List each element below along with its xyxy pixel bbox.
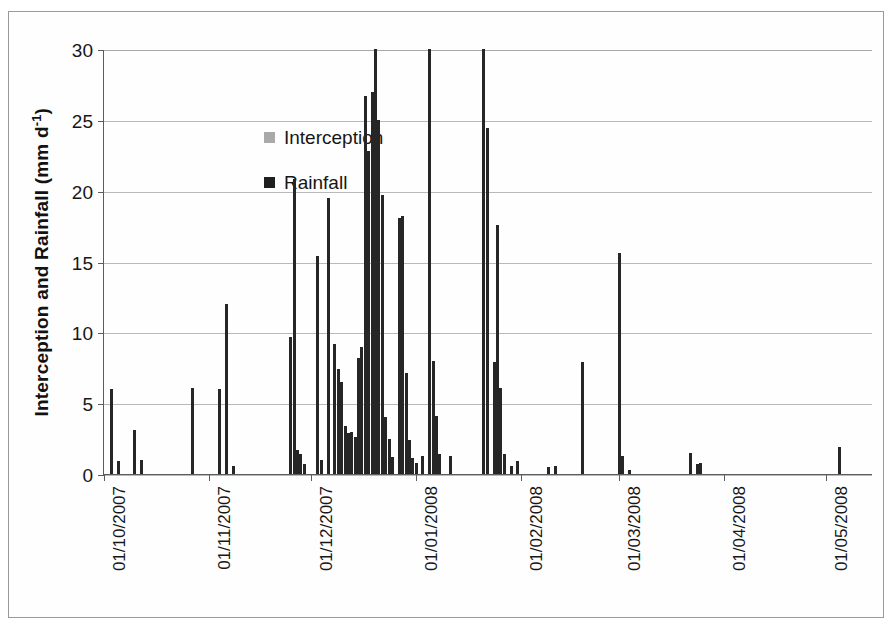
bar-rainfall [133,430,136,474]
x-axis-tick-label: 01/10/2007 [111,486,128,571]
x-axis-tick-label: 01/05/2008 [833,486,850,571]
y-axis-tick-label: 30 [72,41,93,60]
bar-rainfall [117,461,120,474]
x-axis-tick-mark [724,474,725,481]
bar-rainfall [628,470,631,474]
y-axis-tick-label: 10 [72,324,93,343]
bar-rainfall [320,460,323,474]
square-swatch-icon [264,177,275,188]
x-axis-tick-mark [311,474,312,481]
bar-rainfall [516,461,519,474]
bar-rainfall [391,457,394,474]
bar-rainfall [110,389,113,474]
y-axis-tick-label: 25 [72,111,93,130]
bar-rainfall [421,456,424,474]
bar-rainfall [621,456,624,474]
bar-rainfall [581,362,584,474]
bar-rainfall [415,463,418,474]
y-axis-tick-mark [98,404,104,405]
x-axis-tick-label: 01/01/2008 [423,486,440,571]
bar-rainfall [689,453,692,474]
y-axis-title-exponent: -1 [29,115,44,127]
y-axis-tick-mark [98,263,104,264]
y-axis-title-close: ) [31,108,52,115]
x-axis-tick-mark [521,474,522,481]
bar-rainfall [486,128,489,474]
bar-rainfall [449,456,452,474]
x-axis-tick-label: 01/04/2008 [731,486,748,571]
bar-rainfall [327,198,330,474]
y-axis-title-text: Interception and Rainfall (mm d-1) [29,108,53,417]
bar-rainfall [618,253,621,474]
legend-label-interception: Interception [284,128,383,147]
figure-border-frame: Interception and Rainfall (mm d-1) 05101… [8,11,884,618]
x-axis-tick-mark [104,474,105,481]
y-axis-tick-mark [98,121,104,122]
bar-rainfall [838,447,841,474]
bar-rainfall [547,467,550,474]
square-swatch-icon [264,132,275,143]
x-axis-tick-mark [416,474,417,481]
y-axis-tick-label: 20 [72,182,93,201]
x-axis-tick-label: 01/11/2007 [216,486,233,570]
y-axis-tick-mark [98,50,104,51]
bar-rainfall [140,460,143,474]
gridline [104,121,872,122]
x-axis-tick-label: 01/12/2007 [318,486,335,571]
bar-rainfall [191,388,194,474]
bar-rainfall [293,179,296,474]
bar-rainfall [232,466,235,475]
gridline [104,50,872,51]
gridline [104,475,872,476]
x-axis-tick-mark [209,474,210,481]
y-axis-title: Interception and Rainfall (mm d-1) [27,50,55,475]
y-axis-tick-label: 15 [72,253,93,272]
bar-rainfall [554,466,557,475]
plot-area: 051015202530 01/10/200701/11/200701/12/2… [103,50,872,475]
y-axis-tick-mark [98,333,104,334]
bar-rainfall [699,463,702,474]
y-axis-tick-label: 5 [82,395,93,414]
bar-rainfall [316,256,319,474]
x-axis-tick-label: 01/03/2008 [626,486,643,571]
bar-rainfall [225,304,228,474]
bar-rainfall [503,454,506,474]
bar-rainfall [510,466,513,475]
y-axis-tick-label: 0 [82,466,93,485]
x-axis-tick-mark [826,474,827,481]
y-axis-title-main: Interception and Rainfall (mm d [31,127,52,417]
bar-rainfall [303,464,306,474]
bar-rainfall [218,389,221,474]
x-axis-tick-label: 01/02/2008 [528,486,545,571]
y-axis-tick-mark [98,192,104,193]
x-axis-tick-mark [619,474,620,481]
bar-rainfall [438,454,441,474]
